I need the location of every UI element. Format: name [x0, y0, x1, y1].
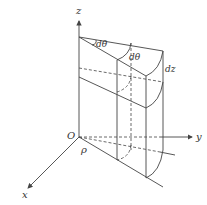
x-axis-label: x: [22, 190, 28, 200]
diagram-canvas: [0, 0, 207, 205]
angle-label-1: dθ: [96, 40, 107, 49]
angle-label-2: dθ: [129, 53, 140, 62]
mid-inner-arc: [117, 76, 131, 92]
base-inner-arc: [117, 145, 131, 160]
base-outer-arc: [146, 150, 163, 178]
mid-outer-arc: [146, 82, 163, 108]
rho-label: ρ: [81, 145, 87, 155]
top-outer-arc: [146, 51, 163, 76]
origin-label: O: [67, 131, 75, 141]
mid-front-edge: [79, 77, 146, 108]
dz-label: dz: [165, 65, 176, 74]
cylindrical-volume-element-diagram: z y x O dθ dθ dz ρ: [0, 0, 207, 205]
x-axis: [28, 137, 79, 188]
mid-back-edge: [79, 68, 163, 82]
y-axis-label: y: [196, 132, 202, 142]
z-axis-label: z: [76, 6, 81, 16]
